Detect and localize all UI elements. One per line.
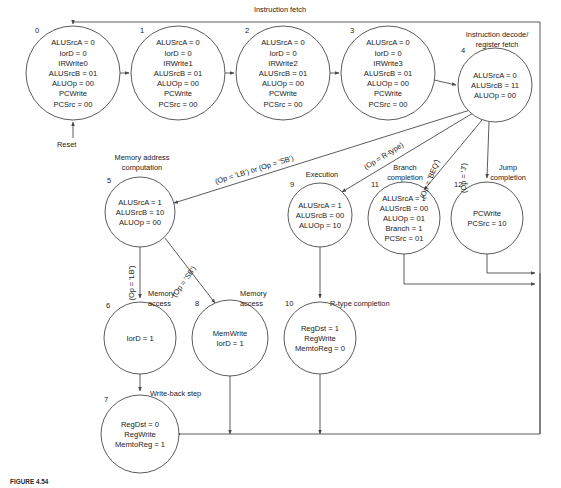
state-signal-1-0: ALUSrcA = 0 <box>156 38 200 47</box>
state-signal-0-5: PCWrite <box>59 89 87 98</box>
state-node-4[interactable]: 4ALUSrcA = 0ALUSrcB = 11ALUOp = 00 <box>458 46 532 122</box>
edge-4-to-12 <box>487 122 489 178</box>
label-reset: Reset <box>57 140 76 149</box>
state-signal-3-5: PCWrite <box>374 89 402 98</box>
state-signal-3-2: IRWrite3 <box>373 59 402 68</box>
state-number-10: 10 <box>285 299 293 308</box>
label-memory-address-1: Memory address <box>114 153 169 162</box>
label-jump-completion-1: Jump <box>499 163 517 172</box>
state-signal-1-1: IorD = 0 <box>164 49 191 58</box>
state-signal-3-6: PCSrc = 00 <box>368 100 407 109</box>
state-signal-7-0: RegDst = 0 <box>121 420 159 429</box>
label-memory-access-lb-2: access <box>148 299 171 308</box>
state-number-3: 3 <box>350 26 354 35</box>
label-memory-address-2: computation <box>122 163 162 172</box>
label-jump-completion-2: completion <box>490 173 526 182</box>
edge-12-return <box>487 254 535 273</box>
state-number-8: 8 <box>195 299 199 308</box>
state-signal-2-1: IorD = 0 <box>269 49 296 58</box>
state-signal-3-4: ALUOp = 00 <box>367 79 409 88</box>
label-memory-access-sb-1: Memory <box>240 289 267 298</box>
edge-label-lb-or-sb: (Op = 'LB') or (Op = 'SB') <box>214 153 295 185</box>
state-signal-5-1: ALUSrcB = 10 <box>116 208 164 217</box>
state-signal-4-1: ALUSrcB = 11 <box>471 81 519 90</box>
state-signal-0-4: ALUOp = 00 <box>52 79 94 88</box>
state-signal-2-5: PCWrite <box>269 89 297 98</box>
state-signal-9-0: ALUSrcA = 1 <box>298 201 342 210</box>
state-signal-6-0: IorD = 1 <box>126 334 153 343</box>
label-rtype-completion: R-type completion <box>330 299 390 308</box>
state-signal-10-1: RegWrite <box>304 334 336 343</box>
state-signal-9-2: ALUOp = 10 <box>299 221 341 230</box>
state-signal-8-1: IorD = 1 <box>216 339 243 348</box>
state-signal-4-0: ALUSrcA = 0 <box>473 71 517 80</box>
state-signal-12-1: PCSrc = 10 <box>467 219 506 228</box>
state-signal-11-3: Branch = 1 <box>386 224 423 233</box>
state-signal-1-5: PCWrite <box>164 89 192 98</box>
edge-11-return <box>404 254 535 284</box>
state-number-9: 9 <box>290 180 294 189</box>
caption-id: FIGURE 4.54 <box>10 478 49 485</box>
edge-label-jump: (Op = 'J') <box>459 163 468 193</box>
state-node-5[interactable]: 5ALUSrcA = 1ALUSrcB = 10ALUOp = 00 <box>105 176 175 247</box>
state-node-6[interactable]: 6IorD = 1 <box>104 301 176 374</box>
state-number-6: 6 <box>106 301 110 310</box>
state-signal-10-2: MemtoReg = 0 <box>295 344 345 353</box>
label-instruction-decode-2: register fetch <box>476 40 519 49</box>
state-signal-5-0: ALUSrcA = 1 <box>118 198 162 207</box>
state-signal-2-6: PCSrc = 00 <box>263 100 302 109</box>
label-memory-access-lb-1: Memory <box>148 289 175 298</box>
state-node-1[interactable]: 1ALUSrcA = 0IorD = 0IRWrite1ALUSrcB = 01… <box>131 26 225 120</box>
state-signal-2-3: ALUSrcB = 01 <box>259 69 307 78</box>
state-signal-12-0: PCWrite <box>473 209 501 218</box>
state-signal-1-6: PCSrc = 00 <box>158 100 197 109</box>
state-signal-2-0: ALUSrcA = 0 <box>261 38 305 47</box>
state-number-7: 7 <box>104 395 108 404</box>
state-node-9[interactable]: 9ALUSrcA = 1ALUSrcB = 00ALUOp = 10 <box>288 180 352 247</box>
label-instruction-fetch: Instruction fetch <box>254 5 306 14</box>
state-signal-3-1: IorD = 0 <box>374 49 401 58</box>
state-number-5: 5 <box>107 176 111 185</box>
state-signal-11-1: ALUSrcB = 00 <box>380 204 428 213</box>
state-layer: 0ALUSrcA = 0IorD = 0IRWrite0ALUSrcB = 01… <box>26 26 532 473</box>
state-node-2[interactable]: 2ALUSrcA = 0IorD = 0IRWrite2ALUSrcB = 01… <box>236 26 330 120</box>
state-signal-10-0: RegDst = 1 <box>301 324 339 333</box>
state-number-2: 2 <box>245 26 249 35</box>
label-branch-completion-2: completion <box>387 173 423 182</box>
label-branch-completion-1: Branch <box>393 163 416 172</box>
state-number-11: 11 <box>371 180 379 189</box>
state-signal-5-2: ALUOp = 00 <box>119 218 161 227</box>
state-signal-1-4: ALUOp = 00 <box>157 79 199 88</box>
edge-bottom-collector <box>179 374 540 434</box>
state-signal-8-0: MemWrite <box>213 329 247 338</box>
fsm-diagram: 0ALUSrcA = 0IorD = 0IRWrite0ALUSrcB = 01… <box>0 0 561 488</box>
state-node-7[interactable]: 7RegDst = 0RegWriteMemtoReg = 1 <box>101 395 179 473</box>
state-signal-0-1: IorD = 0 <box>59 49 86 58</box>
state-number-1: 1 <box>140 26 144 35</box>
edge-label-lb: (Op = 'LB') <box>127 265 136 300</box>
state-signal-2-4: ALUOp = 00 <box>262 79 304 88</box>
state-signal-0-6: PCSrc = 00 <box>53 100 92 109</box>
state-signal-7-1: RegWrite <box>124 430 156 439</box>
state-signal-4-2: ALUOp = 00 <box>474 91 516 100</box>
state-node-3[interactable]: 3ALUSrcA = 0IorD = 0IRWrite3ALUSrcB = 01… <box>341 26 435 120</box>
edge-3-to-4 <box>434 80 456 85</box>
state-number-4: 4 <box>461 46 465 55</box>
label-writeback-step: Write-back step <box>150 389 201 398</box>
state-circle-8[interactable] <box>192 300 268 376</box>
state-signal-0-0: ALUSrcA = 0 <box>51 38 95 47</box>
state-node-0[interactable]: 0ALUSrcA = 0IorD = 0IRWrite0ALUSrcB = 01… <box>26 26 120 120</box>
state-signal-1-2: IRWrite1 <box>163 59 192 68</box>
state-signal-9-1: ALUSrcB = 00 <box>296 211 344 220</box>
state-signal-0-3: ALUSrcB = 01 <box>49 69 97 78</box>
state-signal-7-2: MemtoReg = 1 <box>115 440 165 449</box>
state-node-10[interactable]: 10RegDst = 1RegWriteMemtoReg = 0 <box>284 299 356 374</box>
label-instruction-decode-1: Instruction decode/ <box>466 30 529 39</box>
figure-caption: FIGURE 4.54 <box>10 478 49 485</box>
state-node-8[interactable]: 8MemWriteIorD = 1 <box>192 299 268 376</box>
figure-container: 0ALUSrcA = 0IorD = 0IRWrite0ALUSrcB = 01… <box>0 0 561 488</box>
state-signal-3-0: ALUSrcA = 0 <box>366 38 410 47</box>
label-execution: Execution <box>306 170 338 179</box>
state-signal-1-3: ALUSrcB = 01 <box>154 69 202 78</box>
state-signal-2-2: IRWrite2 <box>268 59 297 68</box>
